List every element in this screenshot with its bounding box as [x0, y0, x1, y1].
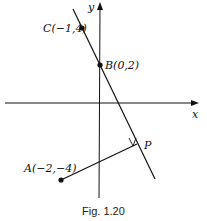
y-axis-label: y	[87, 1, 95, 14]
y-axis	[97, 2, 103, 198]
point-a-label: A(−2,−4)	[23, 162, 76, 175]
point-p-label: P	[143, 139, 152, 152]
coordinate-diagram: x y C(−1,4) B(0,2) A(−2,−4) P Fig. 1.20	[0, 0, 207, 221]
point-c-label: C(−1,4)	[43, 22, 87, 35]
point-a	[58, 177, 63, 182]
x-axis-label: x	[192, 108, 199, 121]
figure-caption: Fig. 1.20	[82, 205, 125, 217]
point-b-label: B(0,2)	[104, 59, 139, 72]
y-axis-arrow-icon	[97, 2, 103, 10]
x-axis	[5, 100, 199, 106]
x-axis-arrow-icon	[191, 100, 199, 106]
point-b	[97, 62, 102, 67]
